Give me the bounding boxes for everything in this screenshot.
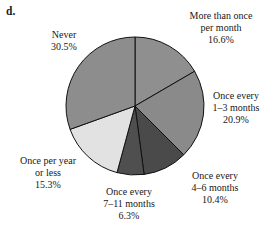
slice-label-more-than-once-per-month: More than once per month 16.6%: [168, 10, 274, 47]
slice-value: 15.3%: [2, 179, 94, 191]
slice-label-line: per month: [168, 22, 274, 34]
slice-label-once-per-year-or-less: Once per year or less 15.3%: [2, 155, 94, 192]
slice-label-line: 1–3 months: [196, 102, 276, 114]
pie-chart-figure: d. More than once per month 16.6% Once e…: [0, 0, 278, 231]
slice-label-line: or less: [2, 167, 94, 179]
slice-value: 30.5%: [34, 41, 94, 53]
slice-label-line: 4–6 months: [172, 182, 258, 194]
slice-label-never: Never 30.5%: [34, 29, 94, 53]
slice-label-line: Once per year: [2, 155, 94, 167]
slice-label-once-every-1-3-months: Once every 1–3 months 20.9%: [196, 90, 276, 127]
slice-label-line: More than once: [168, 10, 274, 22]
slice-value: 16.6%: [168, 34, 274, 46]
slice-label-once-every-4-6-months: Once every 4–6 months 10.4%: [172, 170, 258, 207]
slice-value: 20.9%: [196, 114, 276, 126]
slice-label-line: Once every: [196, 90, 276, 102]
slice-label-line: Once every: [83, 186, 175, 198]
slice-label-line: 7–11 months: [83, 198, 175, 210]
slice-value: 6.3%: [83, 210, 175, 222]
slice-value: 10.4%: [172, 194, 258, 206]
slice-label-line: Once every: [172, 170, 258, 182]
slice-label-once-every-7-11-months: Once every 7–11 months 6.3%: [83, 186, 175, 223]
slice-label-line: Never: [34, 29, 94, 41]
